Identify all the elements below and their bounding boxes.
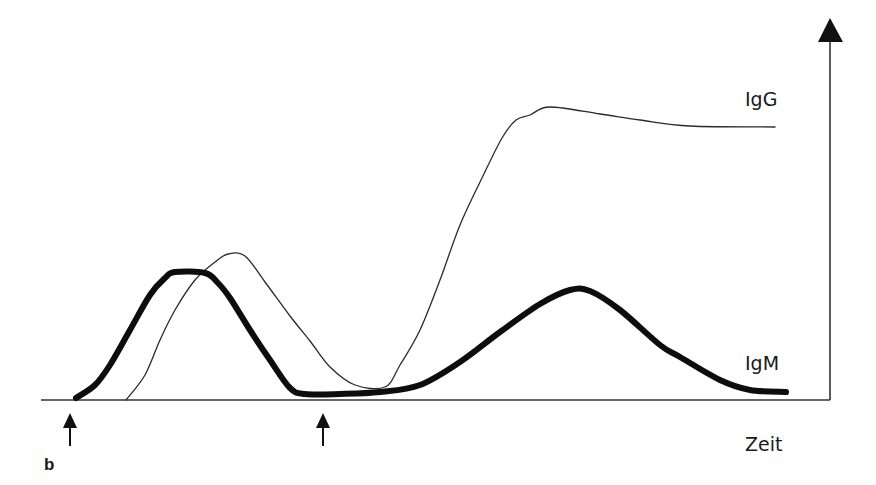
antibody-response-figure: IgG IgM Zeit b: [0, 0, 876, 485]
igg-label: IgG: [745, 88, 777, 110]
igm-curve: [76, 271, 786, 398]
y-axis-arrowhead-icon: [818, 18, 843, 42]
second-exposure-arrow-icon: [316, 413, 330, 446]
first-exposure-arrow-icon: [63, 413, 77, 446]
igm-label: IgM: [745, 352, 779, 374]
x-axis-label: Zeit: [745, 433, 782, 455]
plot-area: [0, 0, 876, 485]
panel-label: b: [44, 455, 54, 475]
